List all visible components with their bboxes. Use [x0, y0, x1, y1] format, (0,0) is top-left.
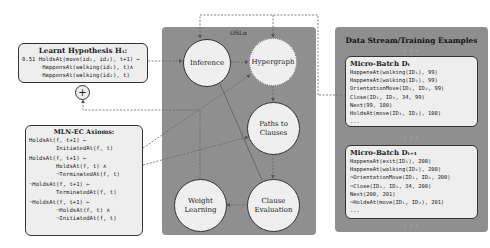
micro-batch-title: Micro-Batch Dₜ [350, 59, 473, 68]
ellipsis-middle: · · · [335, 134, 488, 141]
axiom-line: ¬InitiatedAt(f, t) [29, 214, 139, 222]
axiom-line: InitiatedAt(f, t) [29, 144, 139, 152]
axiom-line: HoldsAt(f, t) ∧ [29, 162, 139, 170]
batch-line: ... [350, 117, 473, 125]
axiom-line: ¬HoldsAt(f, t) ∧ [29, 206, 139, 214]
osl-label: OSLα [230, 29, 247, 36]
micro-batch-title: Micro-Batch Dₜ₊₁ [350, 148, 473, 157]
axiom-line: ¬HoldsAt(f, t+1) ⇐ [29, 180, 139, 188]
paths-to-clauses-node: Paths toClauses [247, 102, 300, 155]
batch-line: OrientationMove(ID₁, ID₂, 99) [350, 84, 473, 92]
batch-line: HappensAt(walking(ID₂), 200) [350, 165, 473, 173]
axiom-line: ¬HoldsAt(f, t+1) ⇐ [29, 198, 139, 206]
micro-batch-t-plus-1: Micro-Batch Dₜ₊₁ HappensAt(exit(ID₁), 20… [345, 145, 478, 219]
batch-line: HappensAt(walking(ID₂), 99) [350, 76, 473, 84]
plus-icon: + [75, 85, 90, 100]
axioms-title: MLN-EC Axioms: [29, 128, 139, 136]
batch-line: HoldsAt(move(ID₁, ID₂), 100) [350, 109, 473, 117]
hypergraph-label: Hypergraph [251, 58, 294, 67]
clause-evaluation-node: ClauseEvaluation [247, 179, 300, 232]
mln-ec-axioms-box: MLN-EC Axioms: HoldsAt(f, t+1) ⇐ Initiat… [25, 125, 143, 236]
batch-line: Close(ID₁, ID₂, 34, 99) [350, 93, 473, 101]
inference-label: Inference [190, 59, 224, 68]
micro-batch-t: Micro-Batch Dₜ HappensAt(walking(ID₁), 9… [345, 56, 478, 127]
hypothesis-line: HappensAt(walking(id₂), t) [22, 71, 144, 79]
clause-label-1: Clause [261, 197, 285, 205]
hypothesis-line: HappensAt(walking(id₁), t)∧ [22, 63, 144, 71]
hypothesis-line: 0.51 HoldsAt(move(id₁, id₂), t+1) ⇐ [22, 55, 144, 63]
batch-line: ¬HoldsAt(move(ID₁, ID₂), 201) [350, 198, 473, 206]
batch-line: Next(99, 100) [350, 101, 473, 109]
data-stream-title: Data Stream/Training Examples [335, 36, 488, 45]
hypothesis-title: Learnt Hypothesis Hₜ: [22, 46, 144, 55]
batch-line: HappensAt(walking(ID₁), 99) [350, 68, 473, 76]
batch-line: Next(200, 201) [350, 190, 473, 198]
hypergraph-node: Hypergraph [249, 38, 297, 86]
axiom-line: HoldsAt(f, t+1) ⇐ [29, 154, 139, 162]
learnt-hypothesis-box: Learnt Hypothesis Hₜ: 0.51 HoldsAt(move(… [18, 43, 148, 83]
clause-label-2: Evaluation [255, 206, 293, 214]
weight-label-1: Weight [188, 197, 213, 205]
axiom-line: TerminatedAt(f, t) [29, 188, 139, 196]
weight-learning-node: WeightLearning [174, 179, 227, 232]
batch-line: ¬Close(ID₁, ID₂, 34, 200) [350, 182, 473, 190]
ellipsis-bottom: · · · [335, 222, 488, 229]
ellipsis-top: · · · [335, 47, 488, 54]
axiom-line: ¬TerminatedAt(f, t) [29, 170, 139, 178]
paths-label-2: Clauses [260, 129, 288, 137]
paths-label-1: Paths to [259, 120, 288, 128]
batch-line: ... [350, 206, 473, 214]
weight-label-2: Learning [184, 206, 216, 214]
batch-line: HappensAt(exit(ID₁), 200) [350, 157, 473, 165]
batch-line: ¬OrientationMove(ID₁, ID₂, 200) [350, 173, 473, 181]
axiom-line: HoldsAt(f, t+1) ⇐ [29, 136, 139, 144]
inference-node: Inference [183, 39, 231, 87]
